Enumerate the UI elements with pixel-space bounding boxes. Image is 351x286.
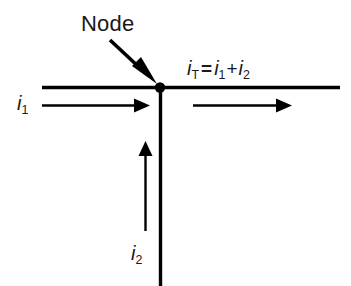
current-label-i1: i1 xyxy=(17,93,28,113)
equation-lhs-subscript: T xyxy=(191,68,199,82)
current-label-i2: i2 xyxy=(131,243,142,263)
current-i1-subscript: 1 xyxy=(21,103,28,117)
node-dot xyxy=(155,82,165,92)
current-arrow-i2 xyxy=(139,141,153,231)
current-i2-subscript: 2 xyxy=(135,253,142,267)
equals-sign: = xyxy=(199,58,214,79)
circuit-node-diagram: Node i1 i2 iT=i1+i2 xyxy=(0,0,351,286)
equation-term1-symbol: i xyxy=(214,57,218,79)
circuit-schematic-canvas xyxy=(0,0,351,286)
node-annotation-label: Node xyxy=(81,13,134,35)
kcl-equation: iT=i1+i2 xyxy=(187,58,250,78)
current-arrow-i1 xyxy=(42,99,150,113)
node-pointer-arrow xyxy=(110,40,157,84)
current-arrow-it xyxy=(193,99,292,113)
equation-term1-subscript: 1 xyxy=(219,68,226,82)
equation-term2-subscript: 2 xyxy=(243,68,250,82)
plus-sign: + xyxy=(226,58,239,79)
